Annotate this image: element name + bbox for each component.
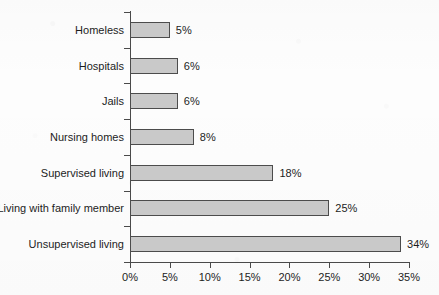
bar-value-label: 6% (184, 60, 200, 71)
x-axis-tick (170, 262, 171, 268)
bar (130, 22, 170, 38)
x-axis-tick-label: 10% (199, 271, 221, 283)
category-label: Living with family member (0, 202, 124, 214)
x-axis-tick (210, 262, 211, 268)
bar (130, 165, 273, 181)
bar (130, 200, 329, 216)
x-axis-tick-label: 30% (358, 271, 380, 283)
bar (130, 236, 401, 252)
category-label: Supervised living (41, 167, 124, 179)
x-axis-tick-label: 15% (239, 271, 261, 283)
category-label: Nursing homes (50, 131, 124, 143)
bar-value-label: 25% (335, 203, 357, 214)
x-axis-tick (409, 262, 410, 268)
x-axis-tick (369, 262, 370, 268)
x-axis-line (130, 262, 410, 263)
bar-row: Jails6% (130, 83, 409, 119)
x-axis-tick-label: 20% (278, 271, 300, 283)
plot-area: Homeless5%Hospitals6%Jails6%Nursing home… (130, 12, 409, 262)
bar-row: Living with family member25% (130, 191, 409, 227)
category-label: Jails (102, 95, 124, 107)
bar-value-label: 8% (200, 131, 216, 142)
x-axis-tick (289, 262, 290, 268)
x-axis-tick-label: 5% (162, 271, 178, 283)
x-axis-tick-label: 35% (398, 271, 420, 283)
y-axis-tick (124, 12, 130, 13)
bar-value-label: 34% (407, 239, 429, 250)
bar-row: Unsupervised living34% (130, 226, 409, 262)
x-axis-tick (130, 262, 131, 268)
x-axis-tick-label: 0% (122, 271, 138, 283)
bar-value-label: 6% (184, 96, 200, 107)
bar-row: Nursing homes8% (130, 119, 409, 155)
bar (130, 58, 178, 74)
x-axis-tick-label: 25% (318, 271, 340, 283)
x-axis-tick (329, 262, 330, 268)
category-label: Homeless (75, 24, 124, 36)
bar-value-label: 5% (176, 24, 192, 35)
x-axis-tick (250, 262, 251, 268)
bar-row: Supervised living18% (130, 155, 409, 191)
bar (130, 129, 194, 145)
bar-value-label: 18% (279, 167, 301, 178)
category-label: Hospitals (79, 60, 124, 72)
category-label: Unsupervised living (29, 238, 124, 250)
bar-row: Homeless5% (130, 12, 409, 48)
bar (130, 93, 178, 109)
chart-screenshot: Homeless5%Hospitals6%Jails6%Nursing home… (0, 0, 439, 295)
bar-row: Hospitals6% (130, 48, 409, 84)
